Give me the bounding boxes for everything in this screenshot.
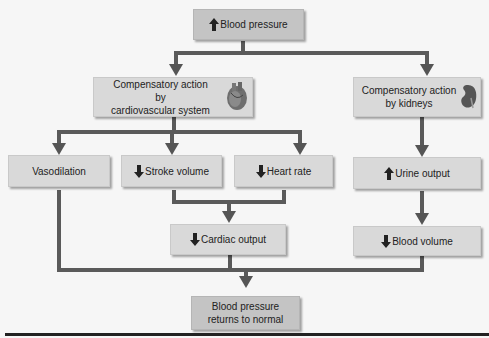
down-arrow-icon xyxy=(256,165,266,178)
node-blood-volume: Blood volume xyxy=(353,226,481,256)
connector xyxy=(298,130,302,144)
node-label: Blood pressure xyxy=(220,18,287,31)
arrowhead xyxy=(239,276,253,288)
arrowhead xyxy=(169,64,183,76)
node-label: Blood volume xyxy=(392,235,453,248)
node-label: Stroke volume xyxy=(145,165,209,178)
node-urine-output: Urine output xyxy=(353,157,481,189)
connector xyxy=(57,190,61,272)
arrowhead xyxy=(165,143,179,155)
node-label: Cardiac output xyxy=(201,233,266,246)
node-label: Vasodilation xyxy=(32,165,86,178)
node-label: Urine output xyxy=(395,167,449,180)
kidney-icon xyxy=(459,84,477,113)
node-cardiac-output: Cardiac output xyxy=(170,224,286,255)
node-label: Blood pressure returns to normal xyxy=(208,300,284,326)
connector xyxy=(174,51,429,55)
node-label: Heart rate xyxy=(267,165,311,178)
arrowhead xyxy=(420,64,434,76)
down-arrow-icon xyxy=(190,233,200,246)
node-blood-pressure-normal: Blood pressure returns to normal xyxy=(191,296,300,330)
heart-icon xyxy=(225,81,249,116)
node-kidney-action: Compensatory action by kidneys xyxy=(353,77,481,117)
connector xyxy=(174,51,178,65)
node-stroke-volume: Stroke volume xyxy=(121,155,222,187)
connector xyxy=(57,130,302,134)
arrowhead xyxy=(222,211,236,223)
down-arrow-icon xyxy=(134,165,144,178)
down-arrow-icon xyxy=(381,235,391,248)
up-arrow-icon xyxy=(209,18,219,31)
connector xyxy=(420,191,424,215)
connector xyxy=(420,256,424,272)
node-cardiovascular-action: Compensatory action by cardiovascular sy… xyxy=(93,77,253,117)
node-label: Compensatory action by kidneys xyxy=(360,84,458,110)
up-arrow-icon xyxy=(384,167,394,180)
bottom-rule xyxy=(5,333,489,336)
connector xyxy=(170,130,174,144)
arrowhead xyxy=(293,143,307,155)
connector xyxy=(57,130,61,144)
node-blood-pressure-increase: Blood pressure xyxy=(193,9,304,40)
node-label: Compensatory action by cardiovascular sy… xyxy=(108,78,213,117)
connector xyxy=(420,117,424,147)
arrowhead xyxy=(52,143,66,155)
arrowhead xyxy=(415,145,429,157)
node-vasodilation: Vasodilation xyxy=(8,155,110,187)
connector xyxy=(425,51,429,65)
connector xyxy=(57,268,424,272)
connector xyxy=(228,254,232,270)
node-heart-rate: Heart rate xyxy=(234,155,333,187)
arrowhead xyxy=(415,213,429,225)
